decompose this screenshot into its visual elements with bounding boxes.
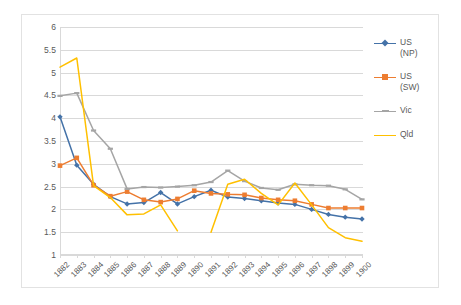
- y-axis-tick-label: 1.5: [44, 227, 56, 237]
- plot-area: 65.554.543.532.521.51 188218831884188518…: [60, 27, 363, 255]
- x-axis-tick-label: 1897: [304, 260, 323, 279]
- x-axis-tickmark: [245, 255, 246, 258]
- chart-legend: US(NP)US(SW)VicQld: [374, 37, 436, 153]
- x-axis-tickmark: [144, 255, 145, 258]
- y-axis-tick-label: 2.5: [44, 182, 56, 192]
- legend-label: Vic: [400, 105, 412, 116]
- y-axis-tick-label: 3: [51, 159, 56, 169]
- x-axis-tick-label: 1900: [354, 260, 373, 279]
- legend-marker: [382, 74, 388, 80]
- y-axis-tick-label: 4: [51, 113, 56, 123]
- x-axis-tickmark: [194, 255, 195, 258]
- legend-label-line: (NP): [400, 48, 417, 59]
- y-axis-tick-label: 6: [51, 22, 56, 32]
- x-axis-tickmark: [94, 255, 95, 258]
- legend-key-swatch: [374, 130, 396, 140]
- x-axis-tick-label: 1892: [220, 260, 239, 279]
- x-axis-tickmark: [345, 255, 346, 258]
- x-axis-tickmark: [110, 255, 111, 258]
- data-point-marker: [57, 95, 62, 97]
- x-axis-tickmark: [312, 255, 313, 258]
- x-axis-tickmark: [60, 255, 61, 258]
- data-point-marker: [343, 214, 348, 219]
- data-point-marker: [309, 184, 314, 186]
- data-point-marker: [209, 191, 214, 196]
- x-axis-tickmark: [328, 255, 329, 258]
- x-axis-tick-label: 1895: [270, 260, 289, 279]
- data-point-marker: [192, 194, 197, 199]
- data-point-marker: [225, 170, 230, 172]
- data-point-marker: [276, 198, 281, 203]
- chart-container: 65.554.543.532.521.51 188218831884188518…: [21, 14, 439, 288]
- legend-label-line: Qld: [400, 129, 413, 140]
- x-axis-tickmark: [177, 255, 178, 258]
- x-axis-tick-label: 1898: [321, 260, 340, 279]
- x-axis-tick-label: 1888: [153, 260, 172, 279]
- x-axis-tick-label: 1882: [52, 260, 71, 279]
- legend-key-swatch: [374, 38, 396, 48]
- y-axis-tick-label: 5.5: [44, 45, 56, 55]
- legend-label-line: US: [400, 71, 419, 82]
- y-axis-tick-label: 1: [51, 250, 56, 260]
- y-axis-tick-label: 3.5: [44, 136, 56, 146]
- data-point-marker: [124, 201, 129, 206]
- x-axis-tick-label: 1883: [69, 260, 88, 279]
- data-point-marker: [225, 192, 230, 197]
- legend-line: [374, 135, 396, 137]
- chart-plot-wrapper: 65.554.543.532.521.51 188218831884188518…: [22, 15, 440, 289]
- series-lines-group: [60, 27, 363, 255]
- x-axis-tick-label: 1885: [102, 260, 121, 279]
- x-axis-tickmark: [127, 255, 128, 258]
- data-point-marker: [359, 198, 364, 200]
- legend-marker: [382, 110, 389, 112]
- data-point-marker: [360, 206, 365, 211]
- data-point-marker: [192, 184, 197, 186]
- legend-item-us-sw[interactable]: US(SW): [374, 71, 436, 92]
- x-axis-tickmark: [261, 255, 262, 258]
- series-line: [60, 117, 362, 219]
- data-point-marker: [343, 206, 348, 211]
- x-axis-tickmark: [362, 255, 363, 258]
- x-axis-tickmark: [77, 255, 78, 258]
- x-axis-tick-label: 1899: [337, 260, 356, 279]
- legend-label: US(NP): [400, 37, 417, 58]
- x-axis-tick-label: 1884: [86, 260, 105, 279]
- data-point-marker: [359, 216, 364, 221]
- x-axis-tick-label: 1891: [203, 260, 222, 279]
- data-point-marker: [125, 188, 130, 190]
- legend-label-line: Vic: [400, 105, 412, 116]
- y-axis-tick-label: 4.5: [44, 90, 56, 100]
- x-axis-tick-label: 1889: [170, 260, 189, 279]
- legend-item-qld[interactable]: Qld: [374, 129, 436, 140]
- series-line: [60, 93, 362, 199]
- x-axis-tick-label: 1896: [287, 260, 306, 279]
- data-point-marker: [57, 114, 62, 119]
- series-qld: [60, 58, 362, 241]
- legend-key-swatch: [374, 106, 396, 116]
- data-point-marker: [74, 92, 79, 94]
- legend-label-line: (SW): [400, 82, 419, 93]
- x-axis-tick-label: 1886: [119, 260, 138, 279]
- x-axis-tick-label: 1887: [136, 260, 155, 279]
- data-point-marker: [208, 181, 213, 183]
- data-point-marker: [142, 198, 147, 203]
- data-point-marker: [141, 186, 146, 188]
- y-axis-tick-label: 2: [51, 204, 56, 214]
- x-axis-tickmark: [228, 255, 229, 258]
- legend-label-line: US: [400, 37, 417, 48]
- data-point-marker: [242, 193, 247, 198]
- data-point-marker: [158, 200, 163, 205]
- data-point-marker: [192, 188, 197, 193]
- x-axis-tick-label: 1894: [253, 260, 272, 279]
- data-point-marker: [343, 188, 348, 190]
- data-point-marker: [175, 197, 180, 202]
- y-axis-tick-label: 5: [51, 68, 56, 78]
- data-point-marker: [175, 186, 180, 188]
- data-point-marker: [326, 185, 331, 187]
- data-point-marker: [276, 189, 281, 191]
- x-axis-tickmark: [161, 255, 162, 258]
- legend-marker: [382, 40, 389, 47]
- x-axis-tick-label: 1890: [186, 260, 205, 279]
- legend-item-us-np[interactable]: US(NP): [374, 37, 436, 58]
- legend-item-vic[interactable]: Vic: [374, 105, 436, 116]
